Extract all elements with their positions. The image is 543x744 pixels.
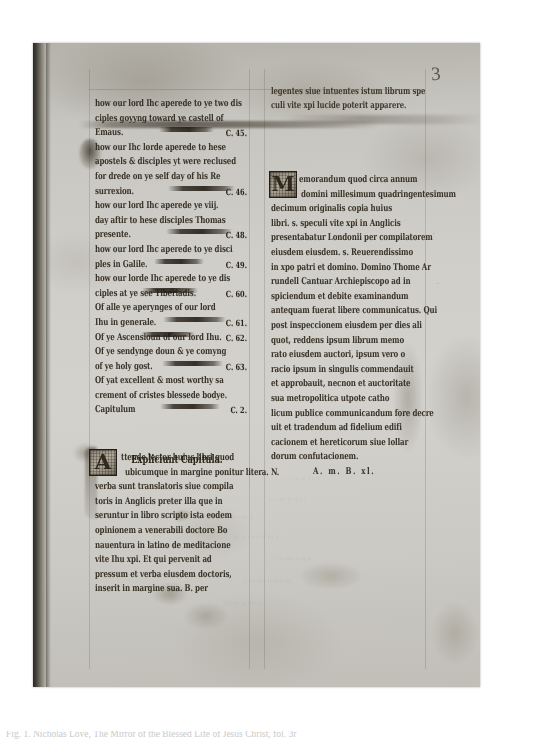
contents-entry-line: surrexion.C. 46. <box>95 183 247 198</box>
memorandum-line: domini millesimum quadringentesimum <box>271 186 423 201</box>
contents-entry-line: of ye holy gost.C. 63. <box>95 358 247 373</box>
memorandum-line: decimum originalis copia huius <box>271 200 423 215</box>
memorandum-line: rato eiusdem auctori, ipsum vero o <box>271 346 423 361</box>
ink-strikeout <box>163 317 225 322</box>
latin-note-line: inserit in margine sua. B. per <box>95 580 247 595</box>
memorandum-line: racio ipsum in singulis commendauit <box>271 361 423 376</box>
ink-strikeout <box>141 332 196 337</box>
memorandum-line: quot, reddens ipsum librum memo <box>271 332 423 347</box>
contents-entry-line: day aftir to hese disciples Thomas <box>95 212 247 227</box>
memorandum-line-text: et approbauit, necnon et auctoritate <box>271 375 423 390</box>
contents-entry-line: Of ye Ascensioun of our lord Ihu.C. 62. <box>95 329 247 344</box>
bleed-through-text: · ··· ···· ·· ·· ·· <box>273 554 312 564</box>
latin-line-text: culi vite xpi lucide poterit apparere. <box>271 99 421 114</box>
memorandum-line-text: dorum confutacionem. <box>271 448 423 463</box>
memorandum-line-text: emorandum quod circa annum <box>271 171 423 186</box>
folio-number: 3 <box>430 63 441 86</box>
contents-entry-text: Of ye sendynge doun & ye comyng <box>95 343 247 358</box>
memorandum-line-text: rundell Cantuar Archiepiscopo ad in <box>271 273 423 288</box>
latin-note-line: ttende lector huius libri quod <box>95 449 247 464</box>
memorandum-line: antequam fuerat libere communicatus. Qui <box>271 302 423 317</box>
contents-entry-text: how our Ihc lorde aperede to hese <box>95 139 247 154</box>
latin-note-text: pressum et verba eiusdem doctoris, <box>95 566 247 581</box>
ink-strikeout <box>154 259 204 264</box>
latin-line-text: legentes siue intuentes istum librum spe <box>271 85 421 100</box>
ink-strikeout <box>168 186 235 191</box>
latin-note-text: nauentura in latino de meditacione <box>95 537 247 552</box>
memorandum-line-text: antequam fuerat libere communicatus. Qui <box>271 302 423 317</box>
text-column-right: legentes siue intuentes istum librum spe… <box>271 85 421 114</box>
contents-entry-text: how our lorde Ihc aperede to ye dis <box>95 270 247 285</box>
contents-entry-line: how our lorde Ihc aperede to ye dis <box>95 270 247 285</box>
contents-entry-line: Emaus.C. 45. <box>95 124 247 139</box>
contents-entry-line: CapitulumC. 2. <box>95 401 247 416</box>
memorandum-line: libri. s. speculi vite xpi in Anglicis <box>271 215 423 230</box>
scan-edge-top <box>33 0 480 6</box>
contents-entry-line: ciples goyyng toward ye castell of <box>95 110 247 125</box>
contents-entry-line: apostels & disciples yt were reclused <box>95 153 247 168</box>
chapter-reference: C. 2. <box>230 401 247 420</box>
marginal-annotation: · <box>437 278 439 287</box>
contents-entry-text: apostels & disciples yt were reclused <box>95 153 247 168</box>
latin-note-line: pressum et verba eiusdem doctoris, <box>95 566 247 581</box>
bleed-through-text: ·· ··· ···· ·· ····· ··· <box>243 576 292 586</box>
memorandum-line: et approbauit, necnon et auctoritate <box>271 375 423 390</box>
stain <box>433 603 477 663</box>
memorandum-line-text: sua metropolitica utpote catho <box>271 390 423 405</box>
manuscript-leaf: 3 how our lord Ihc aperede to ye two dis… <box>33 43 480 687</box>
memorandum-line: licum publice communicandum fore decre <box>271 405 423 420</box>
memorandum-line: sua metropolitica utpote catho <box>271 390 423 405</box>
latin-note-line: ubicumque in margine ponitur litera. N. <box>95 464 247 479</box>
bleed-through-text: ···· ··· ·· ···· ·· <box>223 598 262 608</box>
memorandum-line: cacionem et hereticorum siue lollar <box>271 434 423 449</box>
memorandum-line: spiciendum et debite examinandum <box>271 288 423 303</box>
contents-entry-line: presente.C. 48. <box>95 226 247 241</box>
contents-entry-text: Of alle ye aperynges of our lord <box>95 299 247 314</box>
latin-note-text: ttende lector huius libri quod <box>95 449 247 464</box>
contents-entry-line: Of alle ye aperynges of our lord <box>95 299 247 314</box>
stain <box>185 603 227 629</box>
ink-strikeout <box>159 127 214 132</box>
latin-note-line: nauentura in latino de meditacione <box>95 537 247 552</box>
contents-entry-line: Ihu in generale.C. 61. <box>95 314 247 329</box>
contents-entry-line: crement of cristes blessede bodye. <box>95 387 247 402</box>
contents-entry-text: ciples goyyng toward ye castell of <box>95 110 247 125</box>
contents-entry-text: day aftir to hese disciples Thomas <box>95 212 247 227</box>
contents-entry-line: how our lord Ihc aperede to ye disci <box>95 241 247 256</box>
memorandum-line-text: cacionem et hereticorum siue lollar <box>271 434 423 449</box>
memorandum-line: uit et tradendum ad fidelium edifi <box>271 419 423 434</box>
latin-note-text: ubicumque in margine ponitur litera. N. <box>95 464 247 479</box>
memorandum-line-text: quot, reddens ipsum librum memo <box>271 332 423 347</box>
bleed-through-text: · · · ·· ·· · · ·· <box>283 474 320 484</box>
latin-note-line: vite Ihu xpi. Et qui pervenit ad <box>95 551 247 566</box>
contents-entry-line: ples in Galile.C. 49. <box>95 256 247 271</box>
contents-entry-line: Of ye sendynge doun & ye comyng <box>95 343 247 358</box>
memorandum-line-text: decimum originalis copia huius <box>271 200 423 215</box>
memorandum-line: dorum confutacionem. <box>271 448 423 463</box>
ink-strikeout <box>160 404 219 409</box>
bleed-through-text: ·· · ··· ·· ·· · · <box>269 494 306 504</box>
memorandum-line-text: libri. s. speculi vite xpi in Anglicis <box>271 215 423 230</box>
ink-smear <box>283 115 480 124</box>
bleed-through-text: ··· ·· · ···· ·· ··· · <box>233 532 278 542</box>
contents-entry-text: how our lord Ihc aperede ye viij. <box>95 197 247 212</box>
memorandum-line-text: licum publice communicandum fore decre <box>271 405 423 420</box>
latin-note-line: opinionem a venerabili doctore Bo <box>95 522 247 537</box>
memorandum-line-text: uit et tradendum ad fidelium edifi <box>271 419 423 434</box>
binding-gutter-falloff <box>46 43 51 687</box>
memorandum-line-text: presentabatur Londonii per compilatorem <box>271 229 423 244</box>
stain <box>301 563 361 589</box>
contents-entry-line: how our lord Ihc aperede ye viij. <box>95 197 247 212</box>
ink-strikeout <box>142 288 198 293</box>
memorandum-line: post inspeccionem eiusdem per dies ali <box>271 317 423 332</box>
text-column-left: how our lord Ihc aperede to ye two disci… <box>95 95 247 416</box>
contents-entry-line: how our Ihc lorde aperede to hese <box>95 139 247 154</box>
memorandum-line-text: domini millesimum quadringentesimum <box>271 186 423 201</box>
ink-strikeout <box>162 361 223 366</box>
bleed-through-text <box>223 488 225 498</box>
contents-entry-line: how our lord Ihc aperede to ye two dis <box>95 95 247 110</box>
memorandum-line: in xpo patri et domino. Domino Thome Ar <box>271 259 423 274</box>
figure-caption: Fig. 1. Nicholas Love, The Mirror of the… <box>0 731 543 744</box>
memorandum-line-text: in xpo patri et domino. Domino Thome Ar <box>271 259 423 274</box>
photograph-plate: 3 how our lord Ihc aperede to ye two dis… <box>0 0 543 744</box>
